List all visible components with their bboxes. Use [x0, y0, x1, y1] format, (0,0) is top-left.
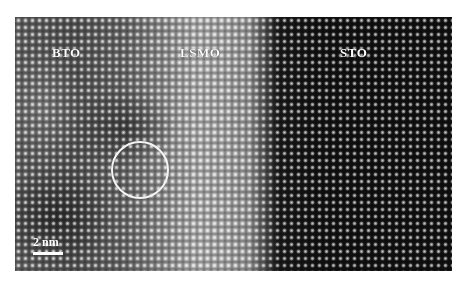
region-label-sto: STO: [340, 45, 367, 61]
scale-bar-label: 2 nm: [33, 235, 59, 250]
scale-bar-line: [33, 252, 63, 255]
annotation-circle: [111, 141, 169, 199]
region-label-bto: BTO: [52, 45, 81, 61]
region-label-lsmo: LSMO: [180, 45, 220, 61]
hrtem-image: BTO LSMO STO 2 nm: [15, 17, 452, 271]
